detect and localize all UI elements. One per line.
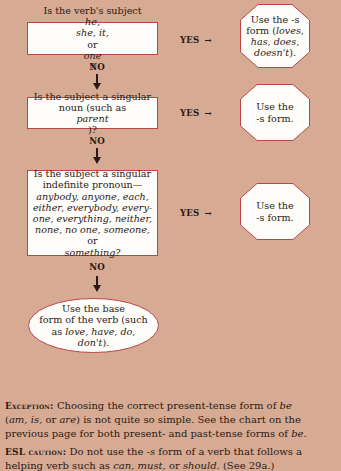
yes-label-3: YES→ [180, 208, 212, 218]
result-text-1: Use the -sform (loves,has, does,doesn't)… [240, 4, 310, 68]
result-octagon-1: Use the -sform (loves,has, does,doesn't)… [240, 4, 310, 68]
down-arrow-icon [90, 148, 104, 164]
question-box-3: Is the subject a singularindefinite pron… [27, 170, 158, 256]
result-text-2: Use the-s form. [240, 84, 310, 141]
exception-text: Exception: Choosing the correct present-… [5, 399, 337, 440]
yes-text: YES [180, 208, 200, 218]
no-label-3: NO [84, 262, 110, 272]
final-text: Use the baseform of the verb (suchas lov… [28, 298, 159, 353]
esl-caution-text: ESL caution: Do not use the -s form of a… [5, 445, 337, 471]
down-arrow-icon [90, 276, 104, 292]
note-label: ESL caution: [5, 447, 70, 457]
esl-caution-note: ESL caution: Do not use the -s form of a… [5, 445, 337, 471]
result-text-3: Use the-s form. [240, 183, 310, 240]
no-label-1: NO [84, 62, 110, 72]
yes-label-1: YES→ [180, 35, 212, 45]
result-octagon-2: Use the-s form. [240, 84, 310, 141]
result-octagon-3: Use the-s form. [240, 183, 310, 240]
question-box-2: Is the subject a singularnoun (such as p… [27, 97, 158, 129]
question-box-1: Is the verb's subject he,she, it, or one… [27, 22, 158, 55]
yes-text: YES [180, 108, 200, 118]
yes-text: YES [180, 35, 200, 45]
down-arrow-icon [90, 74, 104, 90]
no-label-2: NO [84, 136, 110, 146]
yes-label-2: YES→ [180, 108, 212, 118]
exception-note: Exception: Choosing the correct present-… [5, 399, 337, 440]
note-label: Exception: [5, 401, 57, 411]
right-arrow-icon: → [205, 108, 212, 118]
right-arrow-icon: → [205, 208, 212, 218]
right-arrow-icon: → [205, 35, 212, 45]
final-ellipse: Use the baseform of the verb (suchas lov… [28, 298, 159, 353]
